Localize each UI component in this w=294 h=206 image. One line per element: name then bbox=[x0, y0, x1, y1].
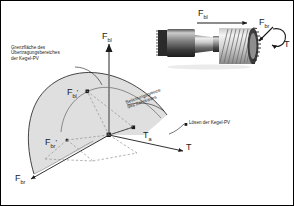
boundary-note-line3: der Kegel-PV bbox=[11, 56, 60, 61]
load-limit-diagram: Grenzfläche des Übertragungsbereiches de… bbox=[0, 0, 294, 206]
inset-label-torque: T bbox=[284, 39, 290, 50]
axis-label-fbr: Fbr bbox=[15, 173, 25, 185]
inset-label-fbl: Fbl bbox=[198, 8, 208, 20]
release-note: Lösen der Kegel-PV bbox=[189, 120, 230, 125]
point-label-fbl-prime: Fbl' bbox=[67, 87, 78, 99]
inset-label-fbr: Fbr bbox=[259, 17, 269, 29]
point-label-fbr-prime: Fbr' bbox=[45, 137, 57, 149]
boundary-note: Grenzfläche des Übertragungsbereiches de… bbox=[11, 45, 60, 61]
helical-gear-shaft-photo bbox=[156, 28, 261, 69]
photo-spline-end bbox=[156, 30, 167, 56]
axis-label-t: T bbox=[186, 142, 192, 153]
transmission-limit-surface bbox=[28, 72, 167, 174]
dash-plane-b bbox=[93, 153, 137, 161]
leader-release bbox=[169, 124, 184, 134]
photo-collar bbox=[213, 36, 219, 52]
point-label-ta: Ta bbox=[143, 130, 152, 142]
photo-helical-gear bbox=[219, 28, 261, 64]
point-release-marker bbox=[185, 123, 188, 126]
axis-label-fbl: Fbl bbox=[102, 31, 112, 43]
photo-body bbox=[167, 29, 195, 57]
diagram-canvas bbox=[1, 1, 294, 206]
